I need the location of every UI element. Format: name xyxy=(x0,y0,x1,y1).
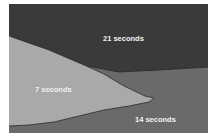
label-21-seconds: 21 seconds xyxy=(103,34,144,43)
regions-graphic xyxy=(9,4,208,133)
label-7-seconds: 7 seconds xyxy=(35,85,72,94)
diagram-frame: 21 seconds 14 seconds 7 seconds xyxy=(9,4,208,133)
label-14-seconds: 14 seconds xyxy=(135,115,176,124)
